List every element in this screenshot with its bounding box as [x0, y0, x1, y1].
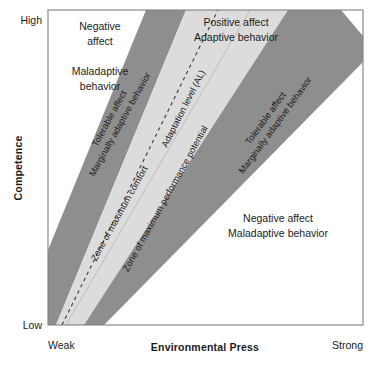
x-axis-weak-label: Weak	[48, 339, 75, 351]
label-negative-affect-line2: affect	[87, 35, 113, 47]
y-axis-title: Competence	[12, 135, 24, 200]
label-negative-affect-lower: Negative affect	[243, 212, 313, 224]
label-maladaptive-behavior-line2: behavior	[80, 80, 121, 92]
label-maladaptive-behavior-line1: Maladaptive	[72, 65, 129, 77]
x-axis-strong-label: Strong	[332, 339, 363, 351]
label-negative-affect-line1: Negative	[79, 20, 121, 32]
figure-root: Negative affect Maladaptive behavior Pos…	[0, 0, 384, 366]
y-axis-high-label: High	[20, 14, 42, 26]
environmental-press-competence-diagram: Negative affect Maladaptive behavior Pos…	[0, 0, 384, 366]
y-axis-title-group: Competence	[12, 135, 24, 200]
label-maladaptive-behavior-lower: Maladaptive behavior	[228, 227, 328, 239]
y-axis-low-label: Low	[23, 319, 43, 331]
label-positive-affect: Positive affect	[203, 16, 268, 28]
x-axis-title: Environmental Press	[151, 341, 259, 353]
label-adaptive-behavior: Adaptive behavior	[194, 31, 279, 43]
